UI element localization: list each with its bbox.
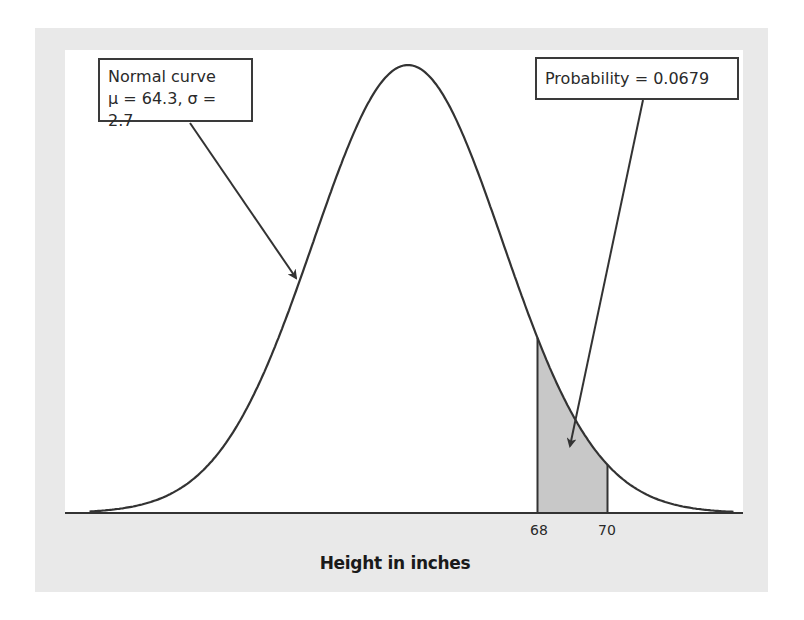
probability-callout: Probability = 0.0679 xyxy=(535,57,739,100)
tick-label-70: 70 xyxy=(598,522,616,538)
probability-text: Probability = 0.0679 xyxy=(545,68,729,90)
tick-label-68: 68 xyxy=(530,522,548,538)
probability-callout-arrow xyxy=(570,100,643,446)
normal-callout-arrow xyxy=(190,123,296,278)
callout-parameters: μ = 64.3, σ = 2.7 xyxy=(108,88,243,132)
normal-curve-callout: Normal curve μ = 64.3, σ = 2.7 xyxy=(98,58,253,122)
x-axis-title: Height in inches xyxy=(320,553,471,573)
callout-title: Normal curve xyxy=(108,66,243,88)
